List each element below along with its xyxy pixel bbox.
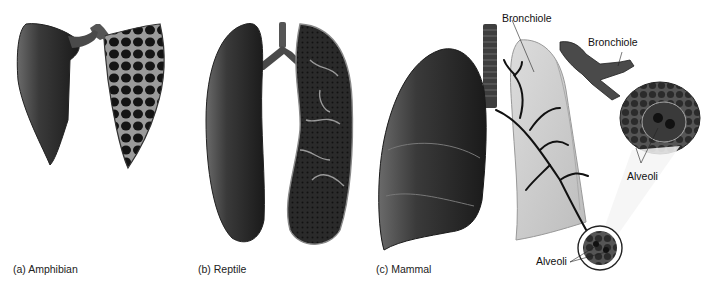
label-alveoli-bottom: Alveoli <box>536 255 567 267</box>
reptile-lung <box>206 22 353 244</box>
caption-amphibian: (a) Amphibian <box>13 263 78 275</box>
label-bronchiole-top: Bronchiole <box>502 12 552 24</box>
label-alveoli-right: Alveoli <box>627 170 658 182</box>
caption-reptile: (b) Reptile <box>198 263 246 275</box>
caption-mammal: (c) Mammal <box>376 263 431 275</box>
label-bronchiole-right: Bronchiole <box>588 36 638 48</box>
mammal-lung <box>379 20 700 270</box>
amphibian-lung <box>17 24 164 168</box>
